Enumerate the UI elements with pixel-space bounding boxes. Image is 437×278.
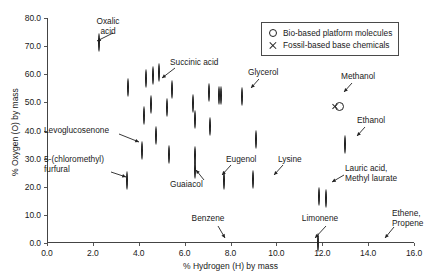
y-tick-label: 70.0 [5, 41, 41, 51]
x-tick [276, 243, 277, 246]
data-point-bio [168, 146, 170, 164]
x-tick-label: 10.0 [268, 248, 284, 258]
legend-label-fossil-based: Fossil-based base chemicals [283, 40, 390, 50]
data-point-bio [171, 81, 173, 99]
circle-icon [267, 29, 279, 37]
y-tick [44, 243, 47, 244]
x-tick [139, 243, 140, 246]
annotation-chloromethyl-furfural: 5-(chloromethyl) furfural [44, 155, 104, 174]
y-tick [44, 102, 47, 103]
x-tick [322, 243, 323, 246]
y-tick-label: 20.0 [5, 182, 41, 192]
y-tick-label: 0.0 [5, 238, 41, 248]
data-point-bio [98, 34, 100, 52]
y-tick [44, 18, 47, 19]
annotation-guaiacol: Guaiacol [170, 180, 203, 190]
x-icon [267, 41, 279, 50]
x-tick [368, 243, 369, 246]
chart-legend: Bio-based platform molecules Fossil-base… [261, 22, 399, 56]
y-tick [44, 187, 47, 188]
annotation-eugenol: Eugenol [226, 155, 256, 165]
data-point-bio [208, 84, 210, 102]
scatter-chart-figure: 0.02.04.06.08.010.012.014.016.00.010.020… [0, 0, 437, 278]
annotation-ethene-propene: Ethene, Propene [392, 209, 423, 228]
x-tick-label: 6.0 [179, 248, 191, 258]
legend-label-bio-based: Bio-based platform molecules [283, 28, 392, 38]
x-tick-label: 8.0 [225, 248, 237, 258]
y-tick-label: 80.0 [5, 13, 41, 23]
data-point-bio [209, 118, 211, 136]
x-tick [93, 243, 94, 246]
data-point-bio [194, 161, 196, 179]
x-tick-label: 14.0 [360, 248, 376, 258]
data-point-bio [223, 172, 225, 190]
x-tick [185, 243, 186, 246]
y-tick [44, 74, 47, 75]
annotation-oxalic-acid: Oxalic acid [96, 17, 119, 36]
data-point-bio [152, 67, 154, 85]
annotation-methanol: Methanol [341, 72, 375, 82]
x-tick-label: 0.0 [41, 248, 53, 258]
data-point-bio [194, 111, 196, 129]
x-tick-label: 12.0 [314, 248, 330, 258]
data-point-bio [255, 131, 257, 149]
x-tick-label: 2.0 [87, 248, 99, 258]
annotation-lysine: Lysine [278, 155, 302, 165]
x-tick-label: 16.0 [406, 248, 422, 258]
data-point-bio [141, 142, 143, 160]
data-point-bio [150, 96, 152, 114]
data-point-bio [166, 99, 168, 117]
legend-item-bio-based: Bio-based platform molecules [267, 27, 392, 39]
legend-item-fossil-based: Fossil-based base chemicals [267, 39, 392, 51]
y-tick-label: 60.0 [5, 69, 41, 79]
y-tick [44, 46, 47, 47]
data-point-bio [155, 127, 157, 145]
data-point-bio [127, 79, 129, 97]
data-point-bio [220, 87, 222, 105]
data-point-bio [145, 70, 147, 88]
annotation-limonene: Limonene [302, 214, 338, 224]
annotation-ethanol: Ethanol [357, 116, 385, 126]
x-tick [231, 243, 232, 246]
x-tick [414, 243, 415, 246]
annotation-levoglucosenone: Levoglucosenone [44, 126, 109, 136]
data-point-bio [252, 171, 254, 189]
data-point-bio [318, 188, 320, 206]
data-point-bio [126, 172, 128, 190]
data-point-bio [143, 107, 145, 125]
annotation-succinic-acid: Succinic acid [170, 58, 218, 68]
data-point-bio [325, 190, 327, 208]
data-point-bio [158, 64, 160, 82]
annotation-glycerol: Glycerol [248, 68, 278, 78]
x-axis-title: % Hydrogen (H) by mass [183, 261, 278, 271]
y-tick-label: 10.0 [5, 210, 41, 220]
x-tick [47, 243, 48, 246]
data-point-bio [344, 136, 346, 154]
annotation-benzene: Benzene [192, 214, 225, 224]
data-point-bio [241, 88, 243, 106]
y-tick [44, 215, 47, 216]
annotation-lauric-acid: Lauric acid, Methyl laurate [345, 164, 397, 183]
y-axis-title: % Oxygen (O) by mass [10, 88, 20, 176]
x-tick-label: 4.0 [133, 248, 145, 258]
